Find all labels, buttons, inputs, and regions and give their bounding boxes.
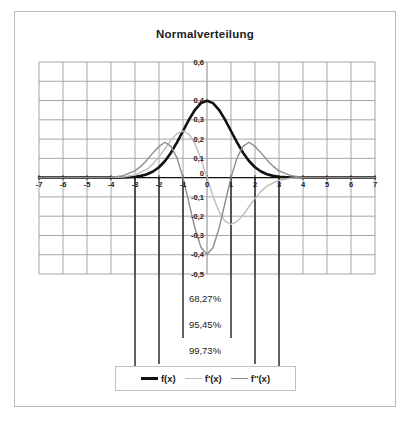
svg-text:-5: -5 bbox=[84, 180, 91, 189]
svg-text:0: 0 bbox=[200, 169, 204, 178]
svg-text:0,3: 0,3 bbox=[194, 115, 204, 124]
svg-text:-4: -4 bbox=[108, 180, 115, 189]
svg-text:0,2: 0,2 bbox=[194, 135, 204, 144]
sigma-3-percent-label: 99,73% bbox=[15, 345, 395, 356]
legend-swatch-f-double-prime-icon bbox=[231, 378, 248, 379]
page-title: Normalverteilung bbox=[15, 28, 395, 40]
svg-text:-3: -3 bbox=[132, 180, 139, 189]
svg-text:-1: -1 bbox=[180, 180, 187, 189]
legend-item-f: f(x) bbox=[141, 374, 176, 384]
svg-text:-2: -2 bbox=[156, 180, 163, 189]
sigma-2-percent-label: 95,45% bbox=[15, 319, 395, 330]
legend-label-f: f(x) bbox=[161, 374, 176, 384]
svg-text:7: 7 bbox=[373, 180, 377, 189]
legend-item-f-prime: f'(x) bbox=[185, 374, 222, 384]
svg-text:0: 0 bbox=[205, 180, 209, 189]
x-axis-tick-labels: -7-6-5-4-3-2-101234567 bbox=[36, 180, 377, 189]
svg-text:-7: -7 bbox=[36, 180, 43, 189]
svg-text:0,6: 0,6 bbox=[194, 58, 204, 67]
svg-text:1: 1 bbox=[229, 180, 233, 189]
svg-text:6: 6 bbox=[349, 180, 353, 189]
svg-text:-0,5: -0,5 bbox=[191, 270, 204, 279]
svg-text:3: 3 bbox=[277, 180, 281, 189]
axis-lines bbox=[39, 62, 375, 274]
svg-text:0,4: 0,4 bbox=[194, 96, 205, 105]
svg-text:-0,4: -0,4 bbox=[191, 250, 205, 259]
chart-card: Normalverteilung -7-6-5-4-3-2-101234567 … bbox=[14, 11, 396, 407]
plot-area: -7-6-5-4-3-2-101234567 -0,5-0,4-0,3-0,2-… bbox=[39, 62, 375, 274]
legend-item-f-double-prime: f''(x) bbox=[231, 374, 270, 384]
svg-text:4: 4 bbox=[301, 180, 306, 189]
legend-swatch-f-icon bbox=[141, 377, 158, 380]
svg-text:-0,3: -0,3 bbox=[191, 231, 204, 240]
legend-label-f-double-prime: f''(x) bbox=[251, 374, 270, 384]
svg-text:0,1: 0,1 bbox=[194, 154, 204, 163]
sigma-1-percent-label: 68,27% bbox=[15, 293, 395, 304]
chart-legend: f(x) f'(x) f''(x) bbox=[115, 366, 296, 391]
svg-text:2: 2 bbox=[253, 180, 257, 189]
svg-text:-6: -6 bbox=[60, 180, 67, 189]
legend-label-f-prime: f'(x) bbox=[205, 374, 222, 384]
chart-svg: -7-6-5-4-3-2-101234567 -0,5-0,4-0,3-0,2-… bbox=[39, 62, 375, 382]
svg-text:5: 5 bbox=[325, 180, 329, 189]
y-axis-tick-labels: -0,5-0,4-0,3-0,2-0,100,10,20,30,40,6 bbox=[191, 58, 205, 279]
svg-text:-0,2: -0,2 bbox=[191, 212, 204, 221]
legend-swatch-f-prime-icon bbox=[185, 378, 202, 379]
svg-text:-0,1: -0,1 bbox=[191, 193, 204, 202]
